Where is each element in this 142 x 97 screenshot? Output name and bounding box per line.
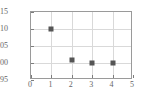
y-tick-mark [31,46,34,47]
data-point [69,57,74,62]
x-tick-mark [31,75,32,78]
gridline-vertical [51,12,52,78]
data-point [49,27,54,32]
x-tick-mark [133,75,134,78]
x-tick-label: 3 [89,80,93,89]
gridline-horizontal [31,63,131,64]
x-tick-label: 2 [69,80,73,89]
gridline-horizontal [31,29,131,30]
scatter-chart: 012345 4.955.005.055.105.15 [0,0,142,97]
y-tick-mark [31,12,34,13]
gridline-vertical [72,12,73,78]
y-tick-label: 5.05 [0,41,8,50]
data-point [110,61,115,66]
y-tick-label: 5.10 [0,24,8,33]
x-tick-mark [113,75,114,78]
x-tick-label: 1 [48,80,52,89]
x-tick-label: 0 [28,80,32,89]
gridline-vertical [113,12,114,78]
gridline-horizontal [31,46,131,47]
x-tick-label: 5 [130,80,134,89]
y-tick-label: 5.00 [0,58,8,67]
y-tick-mark [31,29,34,30]
y-tick-mark [31,63,34,64]
x-tick-mark [92,75,93,78]
plot-area [30,11,132,79]
x-tick-mark [51,75,52,78]
y-tick-label: 4.95 [0,75,8,84]
x-tick-mark [72,75,73,78]
data-point [90,61,95,66]
gridline-vertical [92,12,93,78]
x-tick-label: 4 [110,80,114,89]
y-tick-label: 5.15 [0,7,8,16]
